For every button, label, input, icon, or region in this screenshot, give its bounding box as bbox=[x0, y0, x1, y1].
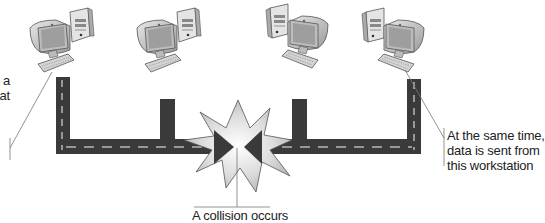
callout-right: At the same time, data is sent from this… bbox=[447, 128, 545, 173]
computer-icon bbox=[266, 4, 328, 68]
callout-right-line-2: data is sent from bbox=[447, 143, 545, 158]
callout-left-line-1: a bbox=[0, 73, 10, 88]
collision-starburst bbox=[184, 100, 292, 192]
callout-right-line-1: At the same time, bbox=[447, 128, 545, 143]
callout-left: a at bbox=[0, 73, 10, 103]
callout-collision: A collision occurs bbox=[192, 208, 288, 223]
computer-icon bbox=[30, 8, 94, 72]
callout-right-line-3: this workstation bbox=[447, 158, 545, 173]
workstation-4 bbox=[362, 8, 424, 72]
workstation-3 bbox=[266, 4, 328, 68]
callout-left-line-2: at bbox=[0, 88, 10, 103]
workstation-2 bbox=[137, 8, 201, 72]
computer-icon bbox=[137, 8, 201, 72]
computer-icon bbox=[362, 8, 424, 72]
workstation-1 bbox=[30, 8, 94, 72]
